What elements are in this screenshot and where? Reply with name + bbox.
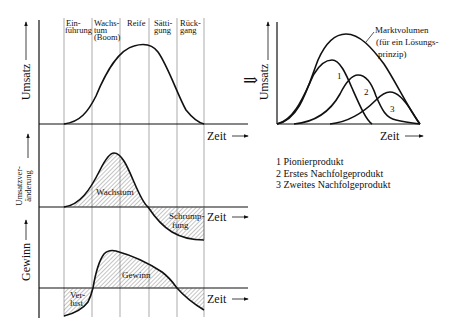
marktvolumen-label: Marktvolumen — [375, 25, 429, 35]
svg-text:(Boom): (Boom) — [94, 32, 121, 42]
svg-text:Gewinn: Gewinn — [19, 243, 33, 281]
right-xlabel: Zeit — [380, 129, 400, 143]
svg-text:gung: gung — [154, 25, 172, 35]
umsatz-y-label: Umsatz — [19, 22, 33, 100]
svg-text:führung: führung — [65, 25, 93, 35]
verlust-label-2: lust — [70, 298, 84, 308]
zeit-label-veraenderung: Zeit — [207, 210, 248, 224]
implies-arrow-icon: ⇒ — [243, 70, 258, 90]
svg-text:Zeit: Zeit — [207, 129, 227, 143]
svg-text:gang: gang — [180, 25, 197, 35]
right-ylabel: Umsatz — [257, 64, 271, 101]
curve-label-2: 2 — [364, 87, 369, 97]
umsatz-curve — [64, 44, 204, 124]
svg-text:änderung: änderung — [23, 169, 33, 201]
marktvolumen-label-3: prinzip) — [378, 49, 407, 59]
zeit-label-gewinn: Zeit — [207, 292, 248, 306]
svg-text:Reife: Reife — [127, 18, 146, 28]
phase-labels: Ein- führung Wachs- tum (Boom) Reife Sät… — [65, 18, 201, 42]
gewinn-y-label: Gewinn — [19, 220, 33, 281]
curve-3 — [330, 92, 420, 124]
svg-text:Umsatz: Umsatz — [19, 64, 33, 101]
curve-label-1: 1 — [337, 71, 342, 81]
schrumpfung-label-2: fung — [172, 220, 189, 230]
zeit-label-umsatz: Zeit — [207, 129, 248, 143]
marktvolumen-label-2: (für ein Lösungs- — [376, 37, 439, 47]
svg-text:Zeit: Zeit — [207, 210, 227, 224]
legend-item: 2 Erstes Nachfolgeprodukt — [276, 168, 390, 180]
legend: 1 Pionierprodukt 2 Erstes Nachfolgeprodu… — [276, 156, 390, 191]
umsatzveraenderung-y-label: Umsatzver- änderung — [14, 134, 33, 206]
wachstum-label: Wachstum — [96, 187, 134, 197]
legend-item: 1 Pionierprodukt — [276, 156, 390, 168]
legend-item: 3 Zweites Nachfolgeprodukt — [276, 179, 390, 191]
gewinn-area-label: Gewinn — [122, 270, 151, 280]
curve-label-3: 3 — [390, 104, 395, 114]
wachstum-area — [64, 153, 148, 207]
svg-text:Zeit: Zeit — [207, 292, 227, 306]
right-chart: Umsatz Zeit 1 2 3 Marktvolumen (für ein … — [257, 22, 439, 143]
